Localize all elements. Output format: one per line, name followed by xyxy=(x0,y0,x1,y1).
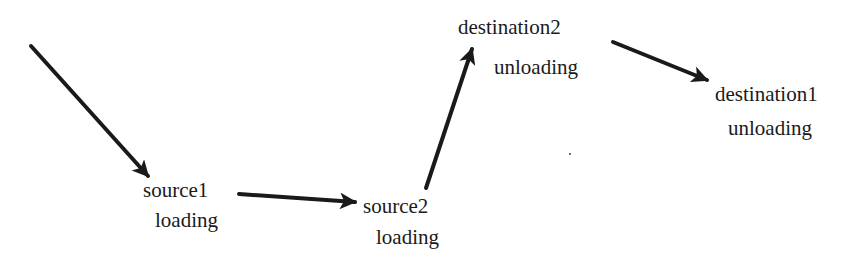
node-destination1-action: unloading xyxy=(728,118,812,139)
node-source1-action: loading xyxy=(155,210,218,231)
edge-source2-to-destination2-arrow-icon xyxy=(426,49,472,188)
node-source1-name: source1 xyxy=(143,180,208,201)
node-destination2-action: unloading xyxy=(494,57,578,78)
edge-destination2-to-destination1-arrow-icon xyxy=(613,42,707,80)
edge-start-to-source1-arrow-icon xyxy=(31,46,148,176)
scan-speck xyxy=(569,153,571,155)
node-source2-name: source2 xyxy=(363,196,428,217)
edge-source1-to-source2-arrow-icon xyxy=(239,194,355,202)
node-source2-action: loading xyxy=(376,227,439,248)
node-destination1-name: destination1 xyxy=(715,84,818,105)
node-destination2-name: destination2 xyxy=(458,17,561,38)
